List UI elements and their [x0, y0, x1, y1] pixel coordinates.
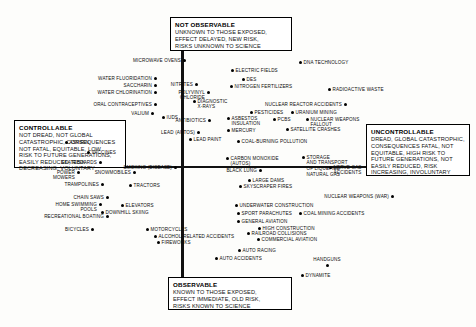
data-point-label: URANIUM MINING [296, 110, 337, 116]
data-point [291, 111, 294, 114]
data-point-label: SKYSCRAPER FIRES [244, 184, 293, 190]
uncontrollable-title: UNCONTROLLABLE [371, 128, 465, 135]
risk-perception-scatter-chart: NOT OBSERVABLE UNKNOWN TO THOSE EXPOSED,… [0, 0, 476, 327]
data-point [258, 227, 261, 230]
data-point [250, 111, 253, 114]
data-point [230, 85, 233, 88]
data-point-label: PCBS [278, 117, 291, 123]
data-point-label: DYNAMITE [306, 273, 331, 279]
data-point-label: RAILROAD COLLISIONS [252, 231, 307, 237]
data-point [237, 140, 240, 143]
data-point-label: ANTIBIOTICS [176, 118, 207, 124]
data-point-label: SACCHARIN [124, 83, 152, 89]
data-point [302, 156, 305, 159]
data-point [101, 183, 104, 186]
data-point-label: VACCINES [92, 150, 116, 156]
data-point [87, 151, 90, 154]
data-point-label: LARGE DAMS [253, 178, 285, 184]
data-point [215, 257, 218, 260]
data-point-label: COAL MINING ACCIDENTS [304, 211, 365, 217]
quadrant-label-observable: OBSERVABLE KNOWN TO THOSE EXPOSED, EFFEC… [168, 277, 292, 310]
data-point-label: MICROWAVE OVENS [133, 58, 181, 64]
data-point-label: POWER MOWERS [53, 170, 75, 181]
data-point-label: ELECTRIC FIELDS [236, 68, 278, 74]
data-point [129, 184, 132, 187]
data-point-label: COAL-BURNING POLLUTION [242, 139, 308, 145]
data-point [154, 77, 157, 80]
data-point-label: DIAGNOSTIC X-RAYS [198, 99, 228, 110]
data-point-label: UNDERWATER CONSTRUCTION [240, 203, 314, 209]
data-point [162, 116, 165, 119]
data-point [154, 235, 157, 238]
observable-body: KNOWN TO THOSE EXPOSED, EFFECT IMMEDIATE… [173, 289, 287, 309]
data-point-label: SMOKING (DISEASE) [124, 165, 173, 171]
data-point-label: BLACK LUNG [226, 168, 257, 174]
data-point-label: CHAIN SAWS [74, 195, 104, 201]
data-point [231, 69, 234, 72]
data-point [237, 220, 240, 223]
data-point-label: HOME SWIMMING POOLS [55, 202, 97, 213]
data-point [183, 59, 186, 62]
data-point [65, 141, 68, 144]
data-point [238, 249, 241, 252]
data-point-label: GENERAL AVIATION [242, 219, 288, 225]
data-point [207, 91, 210, 94]
data-point [99, 161, 102, 164]
not-observable-title: NOT OBSERVABLE [175, 21, 287, 28]
data-point-label: WATER CHLORINATION [98, 90, 152, 96]
data-point [235, 204, 238, 207]
quadrant-label-not-observable: NOT OBSERVABLE UNKNOWN TO THOSE EXPOSED,… [170, 17, 292, 51]
data-point-label: HANDGUNS [297, 257, 357, 263]
data-point [299, 212, 302, 215]
data-point [154, 91, 157, 94]
uncontrollable-body: DREAD, GLOBAL CATASTROPHIC, CONSEQUENCES… [371, 136, 465, 176]
data-point-label: RADIOACTIVE WASTE [333, 87, 384, 93]
data-point-label: TRAMPOLINES [64, 182, 99, 188]
data-point [227, 129, 230, 132]
data-point [154, 103, 157, 106]
data-point-label: BICYCLES [65, 227, 89, 233]
data-point-label: LEAD PAINT [194, 137, 222, 143]
data-point [299, 61, 302, 64]
data-point-label: COMMERCIAL AVIATION [262, 237, 318, 243]
data-point-label: ORAL CONTRACEPTIVES [93, 102, 152, 108]
data-point-label: MOTORCYCLES [151, 227, 188, 233]
data-point-label: SATELLITE CRASHES [291, 127, 341, 133]
data-point-label: CARBON MONOXIDE (AUTOS) [231, 156, 279, 167]
data-point-label: RECREATIONAL BOATING [44, 214, 104, 220]
data-point [193, 100, 196, 103]
data-point [106, 196, 109, 199]
data-point-label: SKATEBOARDS [61, 160, 97, 166]
data-point-label: TRACTORS [134, 183, 160, 189]
data-point [154, 84, 157, 87]
quadrant-label-uncontrollable: UNCONTROLLABLE DREAD, GLOBAL CATASTROPHI… [366, 124, 470, 176]
data-point-label: ASPIRIN [70, 140, 89, 146]
data-point-label: FIREWORKS [162, 240, 191, 246]
data-point [329, 166, 332, 169]
data-point-label: SPORT PARACHUTES [242, 211, 292, 217]
data-point [286, 128, 289, 131]
data-point [189, 138, 192, 141]
observable-title: OBSERVABLE [173, 281, 287, 288]
data-point [326, 264, 329, 267]
data-point-label: VALIUM [131, 111, 149, 117]
data-point-label: SNOWMOBILES [95, 170, 131, 176]
data-point [344, 103, 347, 106]
data-point [227, 117, 230, 120]
data-point [242, 78, 245, 81]
data-point [226, 157, 229, 160]
data-point-label: AUTO ACCIDENTS [220, 256, 262, 262]
data-point [121, 204, 124, 207]
data-point [257, 238, 260, 241]
data-point [146, 228, 149, 231]
controllable-title: CONTROLLABLE [19, 124, 121, 131]
data-point-label: ASBESTOS INSULATION [232, 116, 261, 127]
data-point [259, 169, 262, 172]
data-point [247, 232, 250, 235]
data-point [133, 171, 136, 174]
data-point [208, 119, 211, 122]
data-point-label: ALCOHOL-RELATED ACCIDENTS [159, 234, 235, 240]
data-point [328, 88, 331, 91]
data-point [301, 274, 304, 277]
data-point-label: WATER FLUORIDATION [98, 76, 152, 82]
